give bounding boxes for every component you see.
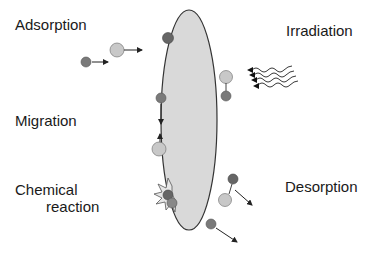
desorbing-light-particle xyxy=(219,194,232,207)
desorbing-single-particle xyxy=(206,219,216,229)
irradiation-group xyxy=(220,66,299,101)
irradiated-light-particle xyxy=(220,71,233,84)
adsorbed-particle xyxy=(163,33,174,44)
adsorption-group xyxy=(81,33,174,68)
label-desorption: Desorption xyxy=(285,178,358,195)
migrating-particle-top xyxy=(156,93,166,103)
desorbing-dark-particle xyxy=(228,174,238,184)
label-irradiation: Irradiation xyxy=(286,22,353,39)
label-migration: Migration xyxy=(15,112,77,129)
diagram-canvas: Adsorption Irradiation Migration Chemica… xyxy=(0,0,375,259)
incoming-light-particle xyxy=(110,43,124,57)
label-chemical: Chemical xyxy=(15,181,78,198)
migrating-particle-bottom xyxy=(152,142,166,156)
irradiated-dark-particle xyxy=(221,91,231,101)
label-reaction: reaction xyxy=(46,198,99,215)
reacting-particle-2 xyxy=(167,198,177,208)
label-adsorption: Adsorption xyxy=(15,16,87,33)
incoming-dark-particle xyxy=(81,57,91,67)
desorption-group xyxy=(206,174,252,242)
